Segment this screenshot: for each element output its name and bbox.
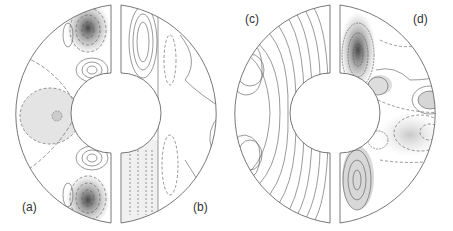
- panel-c: [230, 5, 328, 225]
- panel-d: [340, 12, 450, 210]
- panel-a: [20, 2, 110, 226]
- figure-canvas: [0, 0, 453, 231]
- panel-b: [122, 5, 225, 225]
- panel-label-d: (d): [413, 12, 428, 26]
- panel-label-b: (b): [193, 200, 208, 214]
- panel-label-a: (a): [22, 200, 37, 214]
- panel-label-c: (c): [245, 12, 259, 26]
